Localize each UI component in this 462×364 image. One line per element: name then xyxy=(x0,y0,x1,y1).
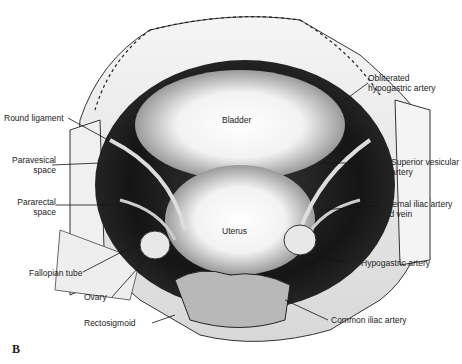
hypogastric-artery-label: Hypogastric artery xyxy=(361,258,430,268)
fallopian-tube-label: Fallopian tube xyxy=(29,268,82,278)
ovary-label: Ovary xyxy=(84,292,107,302)
rectosigmoid-label: Rectosigmoid xyxy=(84,318,136,328)
ovary-right xyxy=(284,225,316,255)
retractor-right xyxy=(395,100,430,265)
anatomical-illustration: Bladder Uterus Round ligament Paravesica… xyxy=(0,0,462,364)
paravesical-space-label: Paravesical space xyxy=(6,155,56,175)
ovary-left xyxy=(140,231,170,259)
uterus-shape xyxy=(165,165,315,275)
pelvic-drawing xyxy=(0,0,462,364)
external-iliac-artery-label: External iliac artery and vein xyxy=(380,199,452,219)
panel-letter: B xyxy=(12,342,20,357)
superior-vesicular-artery-label: Superior vesicular artery xyxy=(391,157,459,177)
round-ligament-label: Round ligament xyxy=(4,113,64,123)
obliterated-hypogastric-artery-label: Obliterated hypogastric artery xyxy=(368,73,436,93)
uterus-label: Uterus xyxy=(222,226,247,236)
bladder-shape xyxy=(135,70,345,180)
common-iliac-artery-label: Common iliac artery xyxy=(331,315,407,325)
bladder-label: Bladder xyxy=(222,115,251,125)
pararectal-space-label: Pararectal space xyxy=(6,197,56,217)
rectosigmoid-shape xyxy=(175,271,290,328)
